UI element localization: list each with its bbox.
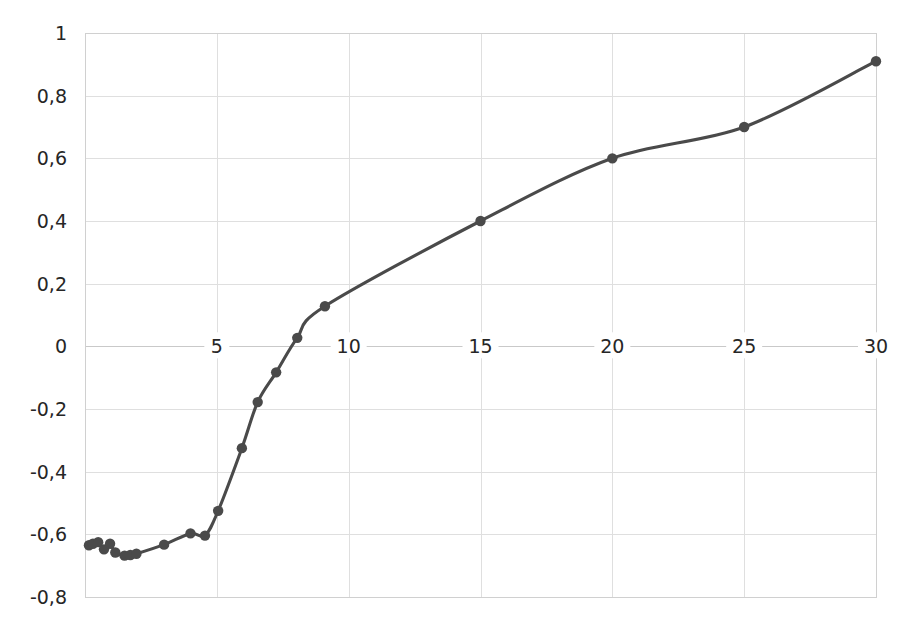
y-axis-tick-label: 0,8: [37, 85, 67, 107]
series-layer: [84, 56, 881, 561]
x-axis-tick-label: 10: [337, 335, 361, 357]
data-point-marker: [105, 539, 115, 549]
y-axis-tick-labels: 10,80,60,40,20-0,2-0,4-0,6-0,8: [30, 22, 67, 608]
x-axis-tick-label: 15: [468, 335, 492, 357]
data-point-marker: [320, 301, 330, 311]
x-axis-tick-label: 5: [211, 335, 223, 357]
data-point-marker: [253, 397, 263, 407]
data-point-marker: [159, 539, 169, 549]
y-axis-tick-label: -0,6: [30, 523, 67, 545]
data-point-marker: [237, 443, 247, 453]
data-point-marker: [475, 216, 485, 226]
y-axis-tick-label: -0,8: [30, 586, 67, 608]
x-axis-tick-labels: 51015202530: [204, 332, 894, 358]
y-axis-tick-label: 1: [55, 22, 67, 44]
data-point-marker: [607, 153, 617, 163]
data-point-marker: [213, 506, 223, 516]
y-axis-tick-label: 0: [55, 335, 67, 357]
x-axis-tick-label: 25: [732, 335, 756, 357]
x-axis-tick-label: 20: [600, 335, 624, 357]
data-point-marker: [131, 549, 141, 559]
y-axis-tick-label: -0,4: [30, 461, 67, 483]
y-axis-tick-label: -0,2: [30, 398, 67, 420]
data-point-marker: [271, 367, 281, 377]
line-chart: 51015202530 10,80,60,40,20-0,2-0,4-0,6-0…: [0, 0, 903, 622]
data-point-marker: [200, 530, 210, 540]
y-axis-tick-label: 0,2: [37, 273, 67, 295]
y-axis-tick-label: 0,6: [37, 147, 67, 169]
chart-container: 51015202530 10,80,60,40,20-0,2-0,4-0,6-0…: [0, 0, 903, 622]
grid-layer: [85, 33, 877, 598]
data-point-marker: [292, 333, 302, 343]
data-point-marker: [871, 56, 881, 66]
data-point-marker: [739, 122, 749, 132]
series-line: [89, 61, 876, 556]
y-axis-tick-label: 0,4: [37, 210, 67, 232]
x-axis-tick-label: 30: [864, 335, 888, 357]
data-point-marker: [110, 547, 120, 557]
data-point-marker: [185, 528, 195, 538]
